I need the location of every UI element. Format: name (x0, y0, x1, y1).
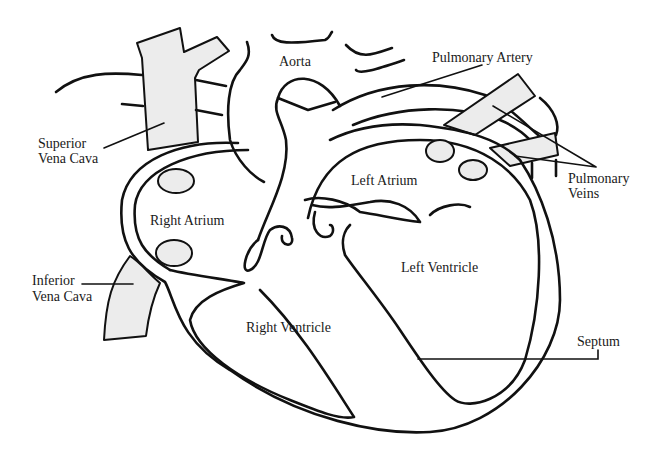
label-inferior-vena-cava-2: Vena Cava (32, 289, 92, 304)
label-inferior-vena-cava-1: Inferior (32, 273, 75, 288)
inferior-vena-cava-shape (104, 256, 160, 340)
heart-diagram: Aorta Pulmonary Artery Superior Vena Cav… (0, 0, 666, 460)
label-right-ventricle: Right Ventricle (246, 320, 331, 335)
left-atrium-opening-1 (426, 140, 454, 162)
label-septum: Septum (577, 334, 620, 349)
right-atrium-opening-lower (156, 240, 192, 266)
label-superior-vena-cava-1: Superior (38, 136, 86, 151)
label-left-atrium: Left Atrium (351, 173, 418, 188)
heart-drawing (0, 0, 666, 460)
left-atrium-opening-2 (459, 160, 487, 180)
pulmonary-vein-upper (444, 74, 535, 135)
label-left-ventricle: Left Ventricle (401, 260, 478, 275)
right-atrium-opening-upper (158, 169, 194, 193)
label-right-atrium: Right Atrium (150, 213, 224, 228)
label-aorta: Aorta (279, 54, 311, 69)
label-superior-vena-cava-2: Vena Cava (38, 151, 98, 166)
label-pulmonary-artery: Pulmonary Artery (432, 50, 533, 65)
label-pulmonary-veins-1: Pulmonary (568, 171, 629, 186)
superior-vena-cava-shape (137, 28, 229, 150)
label-pulmonary-veins-2: Veins (568, 186, 599, 201)
